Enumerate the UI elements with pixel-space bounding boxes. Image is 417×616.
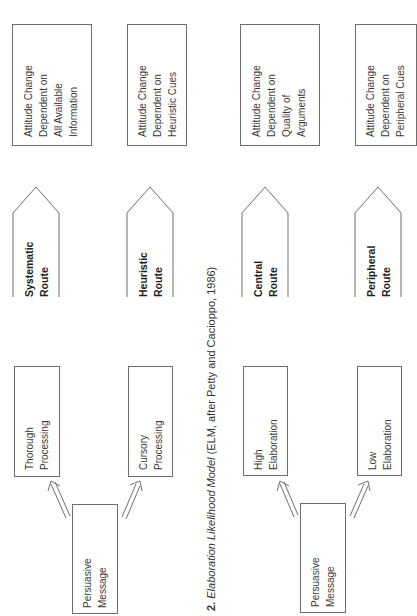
process-box-thorough: Thorough Processing [14, 366, 60, 477]
route-label-central: Central Route [251, 261, 281, 297]
outcome-line: Information [66, 65, 81, 137]
arrow-to-high-elaboration [277, 481, 298, 517]
message-box-hsm: Persuasive Message [72, 504, 118, 614]
route-label-heuristic: Heuristic Route [136, 252, 166, 297]
route-label-peripheral: Peripheral Route [364, 246, 394, 297]
outcome-line: All Available [51, 65, 66, 137]
process-box-low-elaboration: Low Elaboration [357, 366, 402, 476]
figure-caption: 2. Elaboration Likelihood Model (ELM, af… [205, 267, 217, 611]
outcome-line: Dependent on [150, 65, 165, 137]
figure-number: 2. [205, 602, 217, 611]
route-label-systematic: Systematic Route [22, 242, 52, 297]
arrow-to-cursory [122, 481, 142, 519]
outcome-line: Attitude Change [135, 65, 150, 137]
outcome-line: Dependent on [36, 65, 51, 137]
arrow-to-low-elaboration [350, 481, 370, 518]
process-box-cursory: Cursory Processing [128, 366, 173, 477]
outcome-box-peripheral: Attitude Change Dependent on Peripheral … [355, 24, 417, 146]
figure-title: Elaboration Likelihood Model [205, 457, 217, 598]
arrow-to-thorough [48, 481, 70, 518]
outcome-box-central: Attitude Change Dependent on Quality of … [240, 24, 320, 146]
figure-citation: (ELM, after Petty and Cacioppo, 1986) [205, 267, 217, 458]
outcome-line: Heuristic Cues [165, 65, 180, 137]
outcome-line: Attitude Change [21, 65, 36, 137]
message-box-elm: Persuasive Message [300, 503, 346, 613]
outcome-box-systematic: Attitude Change Dependent on All Availab… [12, 24, 92, 146]
outcome-box-heuristic: Attitude Change Dependent on Heuristic C… [127, 24, 187, 146]
process-box-high-elaboration: High Elaboration [243, 366, 288, 476]
